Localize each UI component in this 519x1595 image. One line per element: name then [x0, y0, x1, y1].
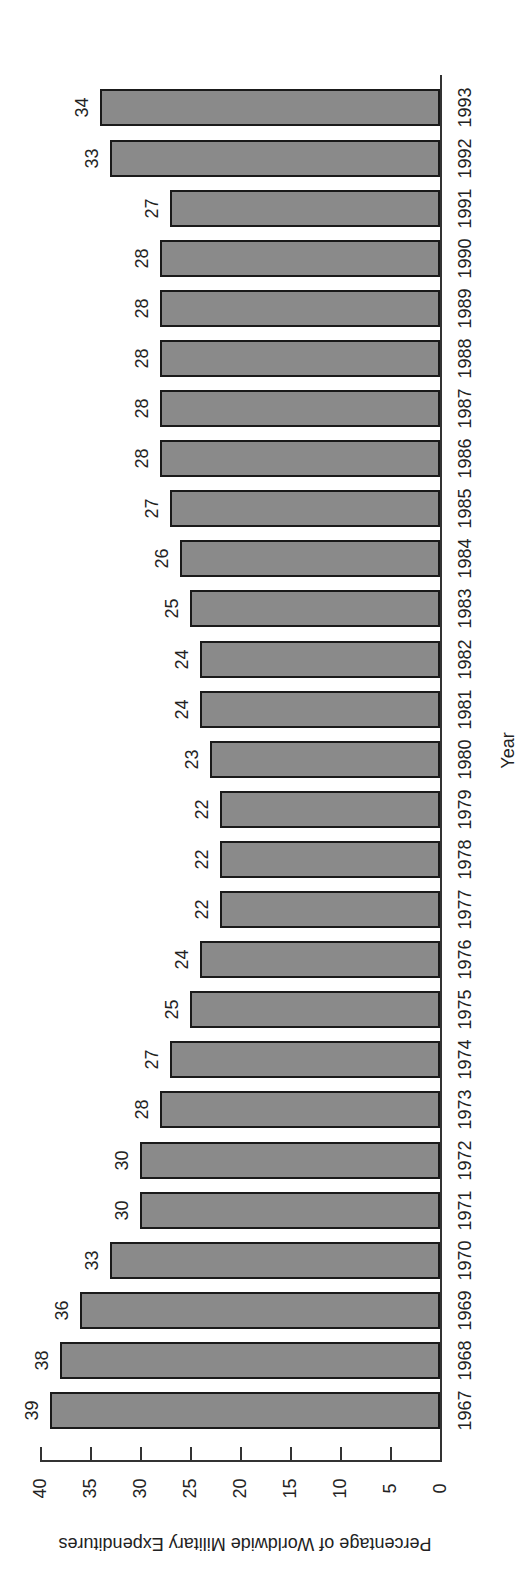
tick-30 [140, 1447, 142, 1462]
value-label-1987: 28 [132, 397, 153, 421]
value-label-1991: 27 [142, 196, 163, 220]
category-axis-title: Year [498, 721, 519, 781]
category-label-1987: 1987 [455, 386, 476, 432]
bar-1973 [160, 1091, 440, 1128]
category-label-1986: 1986 [455, 436, 476, 482]
value-label-1977: 22 [192, 898, 213, 922]
value-label-1981: 24 [172, 697, 193, 721]
tick-35 [90, 1447, 92, 1462]
bar-1987 [160, 390, 440, 427]
tick-label-20: 20 [230, 1477, 251, 1501]
category-label-1969: 1969 [455, 1287, 476, 1333]
bar-1969 [80, 1292, 440, 1329]
value-label-1989: 28 [132, 296, 153, 320]
category-label-1982: 1982 [455, 636, 476, 682]
value-label-1972: 30 [112, 1148, 133, 1172]
bar-1990 [160, 240, 440, 277]
category-label-1993: 1993 [455, 85, 476, 131]
value-label-1968: 38 [32, 1348, 53, 1372]
bar-1988 [160, 340, 440, 377]
value-label-1983: 25 [162, 597, 183, 621]
value-label-1984: 26 [152, 547, 173, 571]
category-label-1980: 1980 [455, 736, 476, 782]
category-axis-line [440, 75, 442, 1462]
value-label-1980: 23 [182, 747, 203, 771]
bar-1976 [200, 941, 440, 978]
tick-20 [240, 1447, 242, 1462]
tick-0 [440, 1447, 442, 1462]
bar-1974 [170, 1041, 440, 1078]
bar-1992 [110, 140, 440, 177]
value-label-1979: 22 [192, 797, 213, 821]
value-label-1986: 28 [132, 447, 153, 471]
tick-15 [290, 1447, 292, 1462]
tick-label-10: 10 [330, 1477, 351, 1501]
value-label-1978: 22 [192, 847, 213, 871]
bar-1984 [180, 540, 440, 577]
value-label-1982: 24 [172, 647, 193, 671]
bar-1972 [140, 1142, 440, 1179]
bar-1968 [60, 1342, 440, 1379]
tick-10 [340, 1447, 342, 1462]
value-label-1974: 27 [142, 1048, 163, 1072]
value-label-1990: 28 [132, 246, 153, 270]
bar-1986 [160, 440, 440, 477]
bar-1993 [100, 89, 440, 126]
category-label-1990: 1990 [455, 235, 476, 281]
category-label-1976: 1976 [455, 937, 476, 983]
bar-1991 [170, 190, 440, 227]
bar-1975 [190, 991, 440, 1028]
tick-label-30: 30 [130, 1477, 151, 1501]
tick-25 [190, 1447, 192, 1462]
bar-1977 [220, 891, 440, 928]
value-label-1971: 30 [112, 1198, 133, 1222]
category-label-1989: 1989 [455, 285, 476, 331]
bar-1982 [200, 641, 440, 678]
tick-5 [390, 1447, 392, 1462]
value-label-1985: 27 [142, 497, 163, 521]
value-label-1993: 34 [72, 96, 93, 120]
bar-1981 [200, 691, 440, 728]
tick-label-25: 25 [180, 1477, 201, 1501]
category-label-1967: 1967 [455, 1388, 476, 1434]
bar-1970 [110, 1242, 440, 1279]
category-label-1991: 1991 [455, 185, 476, 231]
bar-1985 [170, 490, 440, 527]
value-label-1969: 36 [52, 1298, 73, 1322]
category-label-1968: 1968 [455, 1337, 476, 1383]
category-label-1977: 1977 [455, 887, 476, 933]
bar-1989 [160, 290, 440, 327]
category-label-1979: 1979 [455, 786, 476, 832]
category-label-1983: 1983 [455, 586, 476, 632]
bar-1983 [190, 590, 440, 627]
bar-1967 [50, 1392, 440, 1429]
category-label-1984: 1984 [455, 536, 476, 582]
category-label-1970: 1970 [455, 1237, 476, 1283]
category-label-1992: 1992 [455, 135, 476, 181]
category-label-1985: 1985 [455, 486, 476, 532]
tick-label-40: 40 [30, 1477, 51, 1501]
value-label-1988: 28 [132, 346, 153, 370]
tick-label-5: 5 [380, 1477, 401, 1501]
tick-40 [40, 1447, 42, 1462]
category-label-1981: 1981 [455, 686, 476, 732]
bar-1979 [220, 791, 440, 828]
bar-1978 [220, 841, 440, 878]
tick-label-0: 0 [430, 1477, 451, 1501]
bar-1980 [210, 741, 440, 778]
value-label-1992: 33 [82, 146, 103, 170]
value-axis-title: Percentage of Worldwide Military Expendi… [30, 1533, 460, 1554]
category-label-1988: 1988 [455, 335, 476, 381]
category-label-1971: 1971 [455, 1187, 476, 1233]
category-label-1972: 1972 [455, 1137, 476, 1183]
category-label-1975: 1975 [455, 987, 476, 1033]
category-label-1974: 1974 [455, 1037, 476, 1083]
value-label-1967: 39 [22, 1399, 43, 1423]
tick-label-35: 35 [80, 1477, 101, 1501]
category-label-1973: 1973 [455, 1087, 476, 1133]
value-label-1973: 28 [132, 1098, 153, 1122]
bar-1971 [140, 1192, 440, 1229]
value-label-1975: 25 [162, 998, 183, 1022]
value-label-1976: 24 [172, 948, 193, 972]
